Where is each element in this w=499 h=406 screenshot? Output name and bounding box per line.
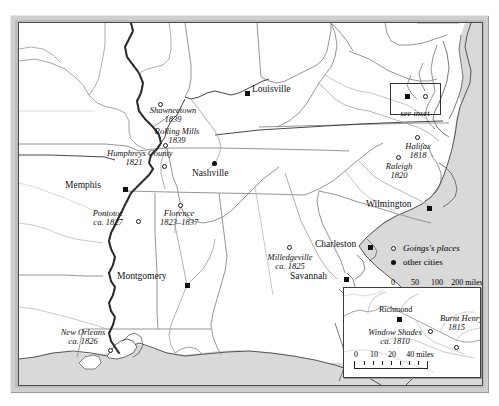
city-label-nashville: Nashville (192, 169, 228, 179)
city-label-charleston: Charleston (315, 240, 356, 250)
goings-label-rolling-mills: Rolling Mills 1839 (152, 127, 202, 145)
inset-scale-tick-0: 0 (354, 350, 358, 359)
goings-label-florence: Florence 1823–1837 (144, 209, 214, 227)
legend-item-other-cities: other cities (391, 255, 483, 269)
goings-label-pontotoc: Pontotoc ca. 1827 (81, 209, 135, 227)
inset-scale-unit-label: 40 miles (406, 350, 433, 359)
goings-marker-pontotoc[interactable] (136, 219, 141, 224)
city-label-wilmington: Wilmington (366, 200, 412, 210)
main-scale-tick-0: 0 (391, 278, 395, 287)
city-marker-savannah[interactable] (344, 277, 349, 282)
inset-city-marker-richmond[interactable] (397, 317, 402, 322)
goings-date-rolling-mills: 1839 (152, 136, 202, 145)
city-marker-nashville[interactable] (212, 161, 217, 166)
goings-label-shawneetown: Shawneetown 1839 (137, 106, 209, 124)
goings-label-milledgeville: Milledgeville ca. 1825 (253, 253, 327, 271)
goings-date-raleigh: 1820 (371, 171, 427, 180)
goings-date-shawneetown: 1839 (137, 115, 209, 124)
main-scale-tick-100: 100 (431, 278, 443, 287)
city-marker-louisville[interactable] (245, 91, 250, 96)
inset-goings-date-window-shades: ca. 1810 (364, 337, 426, 346)
see-inset-city-marker (405, 94, 410, 99)
inset-map: Richmond Window Shades ca. 1810 Burnt He… (343, 287, 481, 378)
see-inset-label: see inset (390, 109, 440, 118)
inset-city-label-richmond: Richmond (379, 306, 412, 314)
goings-marker-new-orleans[interactable] (108, 348, 113, 353)
inset-goings-label-window-shades: Window Shades ca. 1810 (364, 328, 426, 346)
goings-date-halifax: 1818 (391, 151, 445, 160)
goings-label-new-orleans: New Orleans ca. 1826 (57, 328, 109, 346)
legend-label-goings-places: Goings's places (403, 243, 460, 253)
see-inset-goings-marker (423, 94, 428, 99)
inset-scale-tick-20: 20 (388, 350, 396, 359)
legend-label-other-cities: other cities (403, 257, 443, 267)
city-marker-wilmington[interactable] (427, 206, 432, 211)
legend-item-goings-places: Goings's places (391, 241, 483, 255)
inset-scale-bar: 0 10 20 40 miles (354, 350, 432, 369)
city-label-memphis: Memphis (65, 181, 101, 191)
hollow-circle-icon (391, 246, 396, 251)
inset-scale-numbers: 0 10 20 40 miles (354, 350, 432, 361)
goings-date-florence: 1823–1837 (144, 218, 214, 227)
map-figure: see inset Shawneetown 1839 Rolling Mills… (0, 0, 499, 406)
goings-date-new-orleans: ca. 1826 (57, 337, 109, 346)
solid-circle-icon (391, 260, 396, 265)
inset-goings-marker-burnt-henry[interactable] (454, 345, 459, 350)
inset-goings-date-burnt-henry: 1815 (440, 323, 473, 332)
inset-goings-label-burnt-henry: Burnt Henry 1815 (440, 314, 473, 332)
city-label-montgomery: Montgomery (117, 272, 167, 282)
city-marker-montgomery[interactable] (185, 283, 190, 288)
goings-date-pontotoc: ca. 1827 (81, 218, 135, 227)
main-scale-tick-50: 50 (411, 278, 419, 287)
goings-label-halifax: Halifax 1818 (391, 142, 445, 160)
city-marker-memphis[interactable] (123, 187, 128, 192)
map-canvas: see inset Shawneetown 1839 Rolling Mills… (18, 22, 483, 386)
city-label-savannah: Savannah (290, 272, 327, 282)
goings-marker-halifax[interactable] (415, 135, 420, 140)
goings-date-humphreys-county: 1821 (107, 158, 161, 167)
city-marker-charleston[interactable] (368, 245, 373, 250)
main-scale-unit-label: 200 miles (451, 278, 482, 287)
goings-marker-milledgeville[interactable] (287, 245, 292, 250)
city-label-louisville: Louisville (252, 85, 291, 95)
inset-scale-ticks (354, 361, 428, 369)
goings-label-raleigh: Raleigh 1820 (371, 162, 427, 180)
goings-date-milledgeville: ca. 1825 (253, 262, 327, 271)
goings-marker-humphreys-county[interactable] (162, 164, 167, 169)
inset-goings-marker-window-shades[interactable] (428, 329, 433, 334)
inset-scale-tick-10: 10 (370, 350, 378, 359)
goings-label-humphreys-county: Humphreys County 1821 (107, 149, 161, 167)
